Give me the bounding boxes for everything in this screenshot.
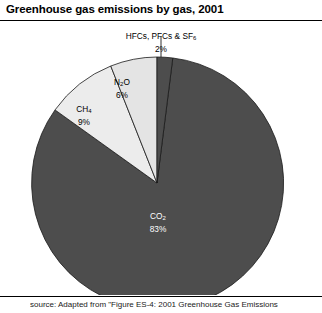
footnote-divider (0, 296, 322, 297)
slice-label-co2-percent: 83% (135, 224, 181, 235)
slice-label-co2: CO2 83% (135, 211, 181, 234)
slice-label-ch4-percent: 9% (62, 117, 106, 128)
slice-label-n2o: N2O 6% (100, 77, 144, 100)
pie-chart-graphic (0, 21, 322, 295)
source-note: source: Adapted from "Figure ES-4: 2001 … (30, 300, 322, 310)
slice-label-ch4-name: CH (76, 104, 88, 114)
slice-label-n2o-percent: 6% (100, 90, 144, 101)
page-title: Greenhouse gas emissions by gas, 2001 (6, 3, 223, 15)
slice-label-fgas-subscript: 6 (193, 35, 196, 41)
slice-label-co2-name: CO (150, 211, 162, 221)
slice-label-fgas-percent: 2% (126, 44, 197, 55)
slice-label-ch4: CH4 9% (62, 104, 106, 127)
slice-label-fgas: HFCs, PFCs & SF6 2% (126, 31, 197, 54)
chart-header: Greenhouse gas emissions by gas, 2001 (0, 0, 322, 21)
pie-chart: HFCs, PFCs & SF6 2% N2O 6% CH4 9% CO2 83… (0, 21, 322, 295)
slice-label-fgas-name: HFCs, PFCs & SF (126, 31, 193, 41)
slice-label-n2o-name2: O (123, 77, 129, 87)
slice-label-co2-subscript: 2 (163, 215, 166, 221)
slice-label-ch4-subscript: 4 (88, 108, 91, 114)
